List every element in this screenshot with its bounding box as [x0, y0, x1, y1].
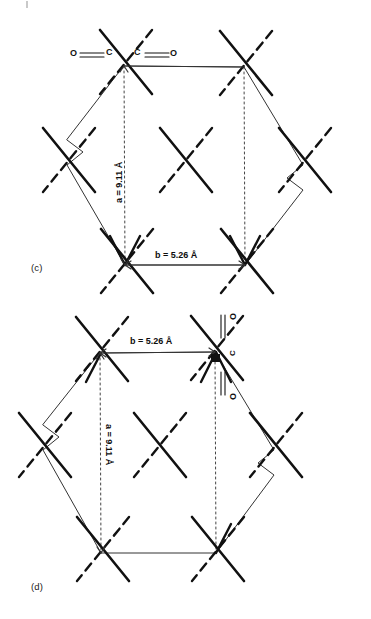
panel-c: O C C O a = 9.11 Å b = 5.26 Å (c) [0, 0, 371, 300]
panel-d-drawing [0, 300, 371, 619]
molecule-carbon-label-left-c: C [106, 47, 113, 57]
molecule-carbon-label-c: C [134, 47, 141, 57]
cell-top-edge-c [124, 66, 244, 67]
molecule-oxygen-right-label-c: O [170, 48, 177, 58]
dimension-arrow-b-c [125, 261, 245, 269]
dimension-arrow-b-d [100, 348, 215, 357]
panel-label-d: (d) [31, 581, 43, 592]
dimension-label-b-d: b = 5.26 Å [128, 336, 174, 346]
molecule-crosses-dashed-d [19, 316, 302, 581]
panel-d: O C O b = 5.26 Å a = 9.11 Å (d) [0, 300, 371, 619]
guide-lines-d [100, 352, 216, 553]
molecule-oxygen-left-label-c: O [70, 48, 77, 58]
carbon-atom-marker-d [211, 354, 220, 362]
molecule-crosses-solid-d [19, 316, 302, 581]
dimension-label-a-c: a = 9.11 Å [114, 160, 124, 205]
molecule-oxygen-bottom-label-d: O [228, 393, 238, 400]
panel-label-c: (c) [31, 262, 43, 273]
dimension-label-b-c: b = 5.26 Å [153, 250, 199, 260]
molecule-bond-rails-c [80, 53, 169, 57]
molecule-oxygen-top-label-d: O [228, 313, 238, 320]
crystal-lattice-figure: O C C O a = 9.11 Å b = 5.26 Å (c) [0, 0, 371, 619]
dimension-label-a-d: a = 9.11 Å [104, 422, 114, 467]
molecule-carbon-label-d: C [228, 350, 237, 356]
